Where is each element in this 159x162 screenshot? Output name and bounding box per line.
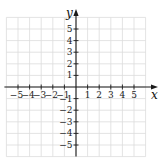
y-tick-label: −4 <box>59 128 73 138</box>
y-tick-label: 4 <box>67 36 73 46</box>
x-tick-label: 4 <box>120 90 126 100</box>
y-tick-label: −2 <box>59 105 72 115</box>
y-tick-label: 3 <box>67 47 73 57</box>
x-tick-label: 5 <box>131 90 137 100</box>
y-tick-label: 5 <box>67 24 73 34</box>
y-tick-label: 1 <box>67 70 73 80</box>
y-tick-label: −5 <box>59 140 73 150</box>
axes <box>4 9 158 157</box>
y-tick-label: −1 <box>59 94 72 104</box>
coordinate-plane: −5−4−3−2−112345 54321−1−2−3−4−5 x y <box>0 0 159 162</box>
x-tick-label: 3 <box>108 90 114 100</box>
y-axis-label: y <box>65 6 73 20</box>
x-tick-label: 1 <box>85 90 91 100</box>
y-tick-label: 2 <box>67 59 73 69</box>
y-axis-arrow-icon <box>73 9 78 16</box>
y-tick-label: −3 <box>59 117 73 127</box>
x-axis-label: x <box>151 88 158 102</box>
x-tick-label: 2 <box>96 90 102 100</box>
